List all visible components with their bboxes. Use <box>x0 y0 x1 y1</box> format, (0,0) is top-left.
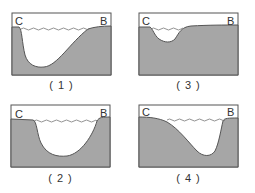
cross-section-1 <box>12 13 111 75</box>
cross-section-2 <box>11 105 110 167</box>
ground-3 <box>139 25 238 75</box>
cross-section-3 <box>139 13 238 75</box>
point-c-label: C <box>142 16 150 27</box>
panel-2: C B <box>11 105 110 167</box>
cross-section-4 <box>139 105 238 167</box>
panel-1: C B <box>12 13 111 75</box>
point-b-label: B <box>227 107 234 118</box>
point-b-label: B <box>100 16 107 27</box>
panel-4: C B <box>139 105 238 167</box>
panel-3: C B <box>139 13 238 75</box>
point-c-label: C <box>142 107 150 118</box>
point-c-label: C <box>15 16 23 27</box>
panel-3-caption: ( 3 ) <box>139 79 238 91</box>
point-b-label: B <box>100 108 107 119</box>
panel-2-caption: ( 2 ) <box>11 172 110 184</box>
point-b-label: B <box>227 16 234 27</box>
panel-4-caption: ( 4 ) <box>139 172 238 184</box>
panel-1-caption: ( 1 ) <box>12 79 111 91</box>
point-c-label: C <box>15 109 23 120</box>
